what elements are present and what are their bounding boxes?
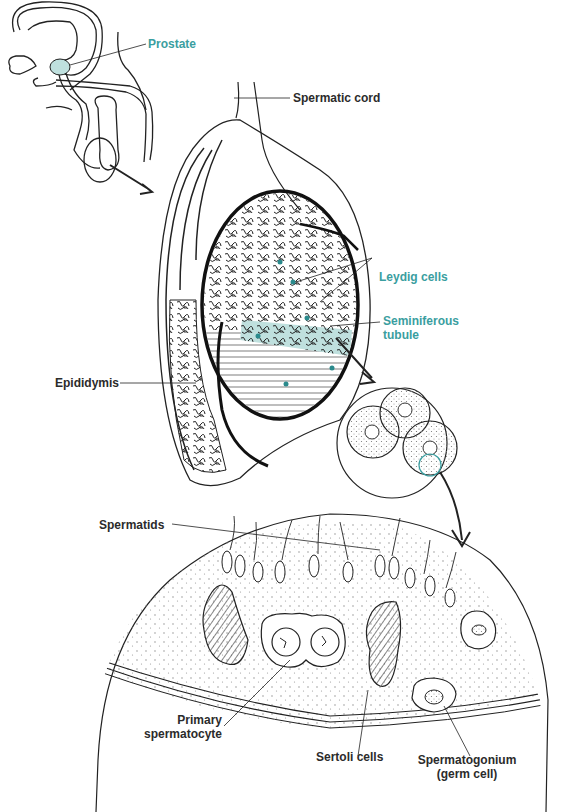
label-primary-spermatocyte: Primary spermatocyte: [128, 713, 222, 741]
label-seminiferous-line1: Seminiferous: [383, 314, 459, 328]
label-primary-line1: Primary: [128, 713, 222, 727]
pelvic-overview: [9, 2, 153, 194]
label-prostate: Prostate: [148, 37, 196, 51]
label-epididymis: Epididymis: [55, 376, 119, 390]
label-primary-line2: spermatocyte: [128, 727, 222, 741]
label-spermatic-cord: Spermatic cord: [293, 91, 380, 105]
label-sertoli-cells: Sertoli cells: [316, 750, 383, 764]
label-spermatids: Spermatids: [99, 518, 164, 532]
label-seminiferous-tubule: Seminiferous tubule: [383, 314, 459, 342]
label-spermatogonium: Spermatogonium (germ cell): [412, 753, 522, 781]
label-leydig-cells: Leydig cells: [379, 270, 448, 284]
anatomy-illustration: [0, 0, 566, 812]
prostate-highlight: [50, 59, 70, 75]
prostate-leader: [70, 44, 146, 65]
label-seminiferous-line2: tubule: [383, 328, 459, 342]
label-spermatogonium-line2: (germ cell): [412, 767, 522, 781]
label-spermatogonium-line1: Spermatogonium: [412, 753, 522, 767]
